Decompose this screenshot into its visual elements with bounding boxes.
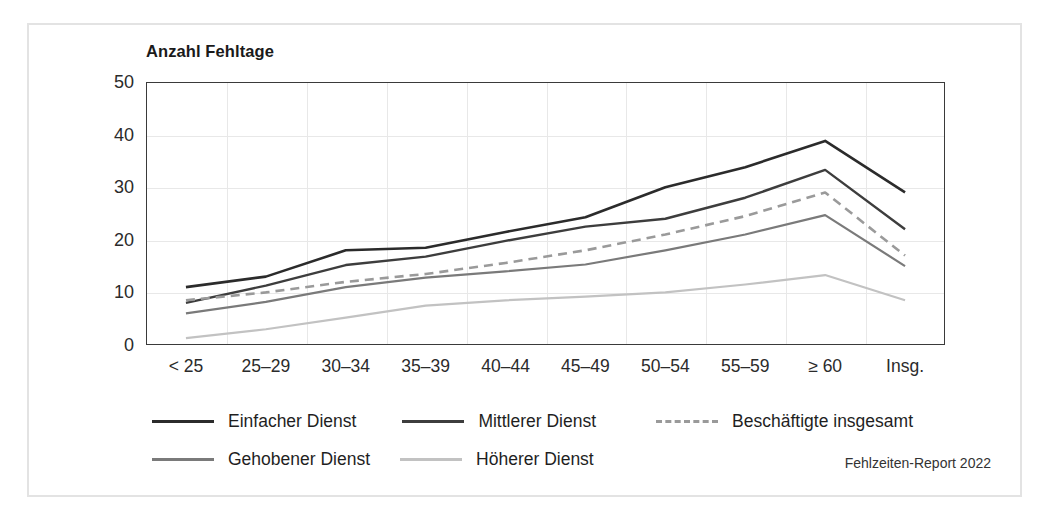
x-axis-tick-label: 35–39 [401, 356, 450, 377]
x-axis-tick-label: 25–29 [242, 356, 291, 377]
y-axis-tick-label: 0 [94, 335, 134, 356]
y-axis-tick-label: 30 [94, 177, 134, 198]
x-axis-tick-label: 30–34 [321, 356, 370, 377]
legend-item[interactable]: Beschäftigte insgesamt [656, 411, 913, 432]
series-line [186, 170, 905, 303]
series-layer [146, 82, 945, 345]
legend-swatch-icon [402, 420, 464, 423]
series-line [186, 275, 905, 338]
x-axis-tick-label: 55–59 [721, 356, 770, 377]
x-axis-tick-label: Insg. [886, 356, 924, 377]
axis-title: Anzahl Fehltage [146, 42, 274, 61]
series-line [186, 141, 905, 287]
x-axis-tick-label: < 25 [169, 356, 204, 377]
x-axis-tick-label: ≥ 60 [808, 356, 842, 377]
plot-wrapper [146, 82, 945, 345]
x-axis-tick-label: 40–44 [481, 356, 530, 377]
legend-item[interactable]: Mittlerer Dienst [402, 411, 596, 432]
x-axis-tick-label: 45–49 [561, 356, 610, 377]
x-axis-tick-label: 50–54 [641, 356, 690, 377]
legend-item[interactable]: Einfacher Dienst [152, 411, 356, 432]
legend-label: Beschäftigte insgesamt [732, 411, 913, 432]
y-axis-tick-label: 10 [94, 282, 134, 303]
legend-label: Höherer Dienst [476, 449, 594, 470]
legend-label: Mittlerer Dienst [478, 411, 596, 432]
legend-swatch-icon [400, 458, 462, 461]
x-axis-tick-labels: < 2525–2930–3435–3940–4445–4950–5455–59≥… [146, 356, 945, 384]
legend-swatch-icon [656, 420, 718, 423]
legend-item[interactable]: Höherer Dienst [400, 449, 594, 470]
legend-label: Gehobener Dienst [228, 449, 370, 470]
chart-figure: Anzahl Fehltage 01020304050 < 2525–2930–… [0, 0, 1049, 523]
y-axis-tick-label: 40 [94, 124, 134, 145]
legend-label: Einfacher Dienst [228, 411, 356, 432]
legend-swatch-icon [152, 420, 214, 423]
series-line [186, 192, 905, 300]
y-axis-tick-label: 20 [94, 229, 134, 250]
legend-row: Einfacher DienstMittlerer DienstBeschäft… [152, 402, 982, 440]
y-axis-tick-label: 50 [94, 72, 134, 93]
legend-item[interactable]: Gehobener Dienst [152, 449, 370, 470]
source-note: Fehlzeiten-Report 2022 [845, 455, 991, 471]
legend-swatch-icon [152, 458, 214, 461]
